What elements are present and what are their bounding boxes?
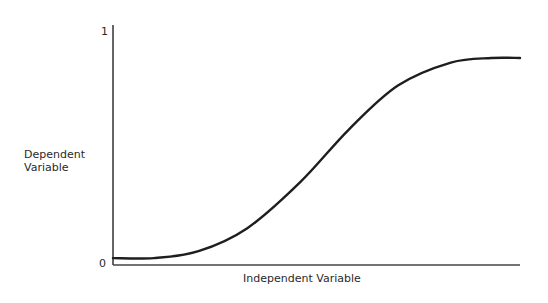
y-tick-1: 1	[101, 25, 108, 38]
y-axis-label: Dependent Variable	[24, 148, 85, 174]
y-axis-label-line2: Variable	[24, 161, 85, 174]
y-axis-label-line1: Dependent	[24, 148, 85, 161]
x-axis-label: Independent Variable	[243, 272, 361, 285]
y-tick-0: 0	[99, 257, 106, 270]
sigmoid-curve	[113, 58, 520, 259]
